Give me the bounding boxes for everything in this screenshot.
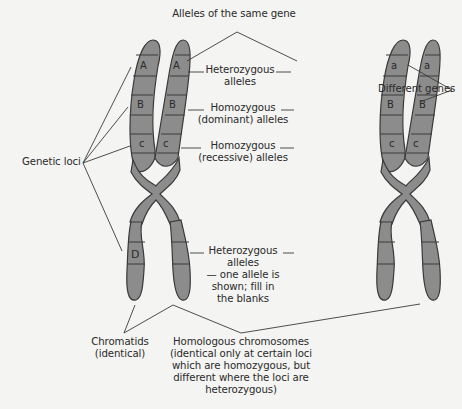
label-heterozygous-alleles: Heterozygous alleles (205, 64, 274, 88)
left-chromosome (127, 40, 191, 300)
locus-c-left-2: c (163, 138, 169, 149)
locus-c-right-1: c (389, 138, 395, 149)
locus-B-right-1: B (387, 99, 394, 110)
locus-c-right-2: c (413, 138, 419, 149)
chromosome-diagram: A A B B c c D a a B B c c (0, 0, 462, 409)
locus-A-left-2: A (173, 60, 180, 71)
locus-A-left-1: A (140, 60, 147, 71)
label-chromatids: Chromatids (identical) (91, 336, 149, 360)
label-alleles-same-gene: Alleles of the same gene (172, 8, 296, 20)
label-different-genes: Different genes (378, 83, 455, 95)
locus-B-left-2: B (169, 99, 176, 110)
label-homozygous-recessive: Homozygous (recessive) alleles (198, 140, 288, 164)
right-chromosome (377, 40, 441, 300)
label-homologous-chromosomes: Homologous chromosomes (identical only a… (170, 336, 312, 396)
locus-B-left-1: B (137, 99, 144, 110)
locus-D-left-1: D (131, 248, 139, 261)
locus-a-right-1: a (391, 60, 397, 71)
label-genetic-loci: Genetic loci (22, 156, 81, 168)
locus-c-left-1: c (139, 138, 145, 149)
label-homozygous-dominant: Homozygous (dominant) alleles (198, 102, 289, 126)
label-heterozygous-fill-blanks: Heterozygous alleles — one allele is sho… (207, 245, 280, 305)
locus-a-right-2: a (424, 60, 430, 71)
